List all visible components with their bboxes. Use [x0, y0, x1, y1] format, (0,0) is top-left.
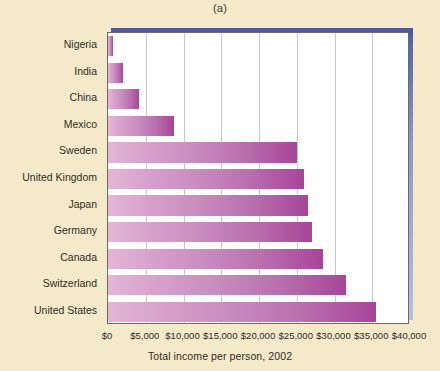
bars-layer	[108, 33, 409, 324]
bar-row	[108, 33, 409, 60]
bar-row	[108, 298, 409, 324]
x-tick-label-35000: $35,000	[354, 330, 388, 341]
x-axis-tick-labels: $0$5,000$10,000$15,000$20,000$25,000$30,…	[0, 330, 440, 346]
chart-plot-area	[107, 32, 409, 324]
x-axis-title: Total income per person, 2002	[0, 350, 440, 362]
y-label-nigeria: Nigeria	[0, 38, 97, 50]
bar-row	[108, 192, 409, 219]
bar-row	[108, 166, 409, 193]
plot-box	[107, 32, 409, 324]
bar-switzerland	[108, 275, 346, 295]
y-axis-category-labels: NigeriaIndiaChinaMexicoSwedenUnited King…	[0, 32, 103, 324]
bar-row	[108, 60, 409, 87]
x-tick-label-20000: $20,000	[241, 330, 275, 341]
x-tick-label-25000: $25,000	[279, 330, 313, 341]
y-label-india: India	[0, 65, 97, 77]
bar-united-kingdom	[108, 169, 304, 189]
panel-caption: (a)	[0, 2, 440, 14]
bar-japan	[108, 195, 308, 215]
y-label-mexico: Mexico	[0, 118, 97, 130]
y-label-japan: Japan	[0, 198, 97, 210]
bar-row	[108, 219, 409, 246]
x-tick-label-15000: $15,000	[203, 330, 237, 341]
x-tick-label-30000: $30,000	[316, 330, 350, 341]
x-tick-label-10000: $10,000	[165, 330, 199, 341]
bar-china	[108, 89, 139, 109]
y-label-china: China	[0, 91, 97, 103]
y-label-sweden: Sweden	[0, 144, 97, 156]
y-label-switzerland: Switzerland	[0, 277, 97, 289]
bar-sweden	[108, 142, 297, 162]
bar-row	[108, 139, 409, 166]
bar-united-states	[108, 302, 376, 322]
x-tick-label-0: $0	[102, 330, 113, 341]
y-label-canada: Canada	[0, 251, 97, 263]
y-label-united-kingdom: United Kingdom	[0, 171, 97, 183]
y-label-united-states: United States	[0, 304, 97, 316]
x-tick-label-5000: $5,000	[130, 330, 159, 341]
bar-nigeria	[108, 36, 113, 56]
bar-india	[108, 63, 123, 83]
bar-row	[108, 245, 409, 272]
figure-root: (a) NigeriaIndiaChinaMexicoSwedenUnited …	[0, 0, 440, 371]
bar-row	[108, 113, 409, 140]
bar-row	[108, 272, 409, 299]
bar-canada	[108, 249, 323, 269]
bar-germany	[108, 222, 312, 242]
x-tick-label-40000: $40,000	[392, 330, 426, 341]
bar-mexico	[108, 116, 174, 136]
y-label-germany: Germany	[0, 224, 97, 236]
bar-row	[108, 86, 409, 113]
